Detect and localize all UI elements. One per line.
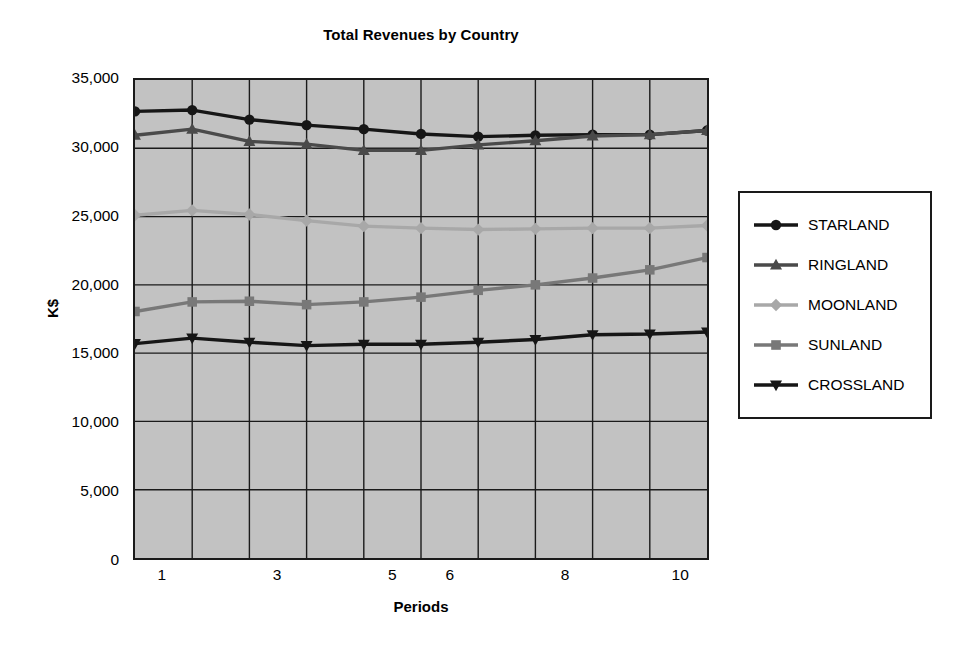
x-axis-tick-label: 6	[445, 566, 454, 584]
legend-swatch-inverted-triangle-icon	[753, 375, 799, 395]
y-axis-tick-labels: 35,00030,00025,00020,00015,00010,0005,00…	[0, 78, 126, 560]
x-axis-tick-label: 1	[157, 566, 166, 584]
chart-title: Total Revenues by Country	[133, 26, 709, 43]
y-axis-tick-label: 15,000	[72, 344, 119, 362]
data-point-diamond	[186, 204, 198, 216]
x-axis-tick-label: 10	[672, 566, 689, 584]
data-point-circle	[301, 120, 311, 130]
x-axis-tick-label: 5	[388, 566, 397, 584]
data-point-diamond	[472, 223, 484, 235]
legend-swatch-circle-icon	[753, 215, 799, 235]
data-point-diamond	[586, 222, 598, 234]
data-point-diamond	[358, 220, 370, 232]
y-axis-tick-label: 35,000	[72, 69, 119, 87]
legend-item-label: MOONLAND	[808, 297, 898, 313]
data-point-square	[645, 265, 655, 275]
y-axis-tick-label: 20,000	[72, 276, 119, 294]
legend-item-crossland[interactable]: CROSSLAND	[740, 365, 930, 405]
data-point-square	[588, 273, 598, 283]
x-axis-title: Periods	[133, 598, 709, 615]
data-point-square	[302, 300, 312, 310]
data-point-square	[359, 297, 369, 307]
legend-swatch-triangle-icon	[753, 255, 799, 275]
legend-item-label: CROSSLAND	[808, 377, 904, 393]
data-point-square	[702, 253, 707, 263]
data-point-square	[187, 297, 197, 307]
legend-item-sunland[interactable]: SUNLAND	[740, 325, 930, 365]
data-point-square	[416, 292, 426, 302]
data-point-circle	[187, 105, 197, 115]
legend-item-ringland[interactable]: RINGLAND	[740, 245, 930, 285]
data-point-circle	[416, 129, 426, 139]
y-axis-tick-label: 5,000	[80, 482, 119, 500]
data-point-square	[135, 307, 140, 317]
data-point-diamond	[770, 299, 782, 311]
data-point-diamond	[529, 223, 541, 235]
legend-item-label: RINGLAND	[808, 257, 888, 273]
data-point-circle	[771, 220, 781, 230]
data-point-circle	[359, 124, 369, 134]
legend-swatch-square-icon	[753, 335, 799, 355]
plot-svg	[135, 80, 707, 558]
chart-legend: STARLANDRINGLANDMOONLANDSUNLANDCROSSLAND	[738, 191, 932, 419]
y-axis-tick-label: 25,000	[72, 207, 119, 225]
data-point-diamond	[135, 209, 141, 221]
data-point-diamond	[243, 208, 255, 220]
legend-item-label: STARLAND	[808, 217, 890, 233]
x-axis-tick-labels: 1356810	[133, 566, 709, 594]
plot-area	[133, 78, 709, 560]
y-axis-tick-label: 10,000	[72, 413, 119, 431]
legend-swatch-diamond-icon	[753, 295, 799, 315]
legend-item-starland[interactable]: STARLAND	[740, 205, 930, 245]
chart-container: Total Revenues by Country K$ 35,00030,00…	[0, 0, 967, 656]
data-point-circle	[244, 114, 254, 124]
data-point-square	[245, 296, 255, 306]
data-point-diamond	[701, 219, 707, 231]
data-point-diamond	[644, 222, 656, 234]
data-point-square	[771, 340, 781, 350]
legend-item-label: SUNLAND	[808, 337, 882, 353]
y-axis-tick-label: 30,000	[72, 138, 119, 156]
data-point-diamond	[415, 222, 427, 234]
x-axis-tick-label: 3	[273, 566, 282, 584]
data-point-square	[473, 286, 483, 296]
data-point-circle	[135, 106, 140, 116]
y-axis-tick-label: 0	[110, 551, 119, 569]
legend-item-moonland[interactable]: MOONLAND	[740, 285, 930, 325]
data-point-square	[531, 280, 541, 290]
x-axis-tick-label: 8	[561, 566, 570, 584]
